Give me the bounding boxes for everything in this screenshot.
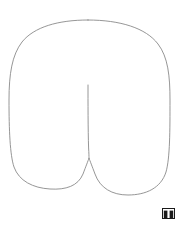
- figure-line-drawing: [0, 0, 182, 230]
- figure-center-notch-path: [88, 85, 89, 158]
- signature-glyph: [162, 208, 175, 219]
- signature-glyph-icon: [162, 208, 175, 219]
- drawing-canvas: [0, 0, 182, 230]
- figure-outline-path: [9, 20, 170, 195]
